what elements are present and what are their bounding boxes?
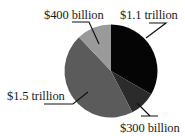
slice-label-300-billion: $300 billion [120, 122, 180, 135]
slice-label-1-1-trillion: $1.1 trillion [120, 9, 178, 22]
slice-label-400-billion: $400 billion [44, 9, 104, 22]
leader-line-1-1-trillion [146, 23, 166, 38]
slice-label-1-5-trillion: $1.5 trillion [7, 90, 65, 103]
pie-slices [65, 25, 158, 118]
